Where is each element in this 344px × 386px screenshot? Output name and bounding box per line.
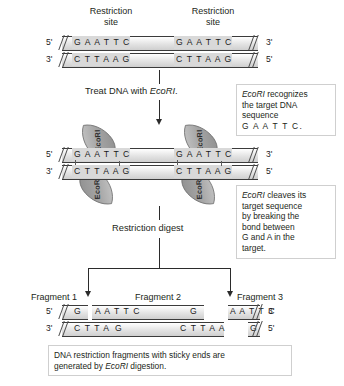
fragment-arrow-head-left — [85, 291, 91, 297]
dna-top-seq-site2: G A A T T C — [176, 36, 232, 49]
restriction-site-label-right-line2: site — [176, 17, 250, 28]
ecori-enzyme-label: EcoRI — [195, 177, 205, 199]
callout-recognize-line1: recognizes — [265, 89, 308, 99]
fragment-branch-left — [88, 268, 89, 292]
end-label-3prime-left-bottom-bound: 3' — [46, 166, 52, 177]
step1-arrow-head — [156, 119, 162, 125]
restriction-site-label-right: Restriction site — [176, 6, 250, 27]
end-label-5prime-left-top-bound: 5' — [46, 149, 52, 160]
step1-label-enzyme: EcoRI — [150, 86, 175, 96]
callout-recognize-sequence: G A A T T C. — [242, 121, 330, 132]
fragment-end-3prime-left: 3' — [46, 323, 52, 334]
dna-break-tick-right-bound — [250, 147, 259, 162]
callout-recognize-line3: sequence — [242, 110, 330, 121]
callout-recognize: EcoRI recognizes the target DNA sequence… — [236, 84, 336, 136]
callout-recognize-enzyme: EcoRI — [242, 89, 265, 99]
cut-mark-site2-top — [177, 160, 178, 165]
step2-connector-line — [159, 206, 160, 220]
callout-cleave-line2: target sequence — [242, 201, 330, 212]
dna-break-tick-left2 — [60, 52, 69, 67]
fragment-branch-right — [230, 268, 231, 292]
dna-break-tick-right2 — [250, 52, 259, 67]
restriction-site-label-right-line1: Restriction — [176, 6, 250, 17]
fragment-1-break-tick-top — [60, 304, 69, 319]
fragment-end-3prime-right: 3' — [268, 306, 274, 317]
cut-mark-site1-bottom — [119, 161, 120, 166]
dna-break-tick-left-bound — [60, 147, 69, 162]
callout-cleave-enzyme: EcoRI — [242, 190, 265, 200]
dna-break-tick-right2-bound — [250, 164, 259, 179]
end-label-5prime-right-bottom: 5' — [266, 54, 272, 65]
dna-break-tick-left2-bound — [60, 164, 69, 179]
dna-bottom-seq-site2-bound: C T T A A G — [176, 165, 232, 178]
ecori-enzyme-label: EcoRI — [93, 177, 103, 199]
restriction-site-label-left-line2: site — [74, 17, 148, 28]
fragment-3-bottom-strand-wrap: G — [248, 322, 260, 335]
cut-mark-site1-top — [75, 160, 76, 165]
fragment-3-break-tick-top — [254, 304, 263, 319]
step2-label: Restriction digest — [112, 223, 183, 233]
step1-arrow-shaft — [159, 100, 160, 120]
fragment-label-3: Fragment 3 — [237, 292, 283, 302]
callout-cleave-conj: and — [249, 232, 267, 242]
callout-summary-line2-suffix: digestion. — [128, 361, 166, 371]
step2-arrow-shaft — [159, 238, 160, 268]
fragment-label-2: Fragment 2 — [135, 292, 181, 302]
dna-bottom-seq-site2: C T T A A G — [176, 53, 232, 66]
fragment-2-bottom-seq-left: G — [115, 322, 123, 335]
dna-break-tick-right — [250, 35, 259, 50]
fragment-branch-line — [88, 268, 231, 269]
dna-top-seq-site2-bound: G A A T T C — [176, 148, 232, 161]
fragment-1-break-tick-bottom — [60, 321, 69, 336]
dna-top-seq-site1-bound: G A A T T C — [74, 148, 130, 161]
fragment-2-bottom-strand-wrap: G C T T A A — [112, 322, 224, 335]
fragment-2-top-seq-left: A A T T C — [95, 305, 141, 318]
dna-bottom-seq-site1: C T T A A G — [74, 53, 130, 66]
callout-cleave-line3: by breaking the — [242, 211, 330, 222]
dna-top-seq-site1: G A A T T C — [74, 36, 130, 49]
restriction-site-label-left: Restriction site — [74, 6, 148, 27]
fragment-3-top-strand-wrap: A A T T C — [228, 305, 260, 318]
callout-summary: DNA restriction fragments with sticky en… — [48, 345, 292, 376]
fragment-end-5prime-right: 5' — [268, 323, 274, 334]
dna-bottom-seq-site1-bound: C T T A A G — [74, 165, 130, 178]
dna-duplex-bound: G A A T T C G A A T T C C T T A A G C T … — [62, 148, 258, 178]
end-label-3prime-right-top: 3' — [266, 37, 272, 48]
cut-mark-site2-bottom — [221, 161, 222, 166]
fragment-3-break-tick-bottom — [254, 321, 263, 336]
end-label-3prime-left-bottom: 3' — [46, 54, 52, 65]
step1-label-prefix: Treat DNA with — [85, 86, 150, 96]
step1-connector-line — [159, 70, 160, 84]
fragment-2-top-seq-right: G — [190, 305, 198, 318]
restriction-site-label-left-line1: Restriction — [74, 6, 148, 17]
callout-cleave: EcoRI cleaves its target sequence by bre… — [236, 185, 336, 259]
end-label-3prime-right-top-bound: 3' — [266, 149, 272, 160]
dna-duplex-intact: G A A T T C G A A T T C C T T A A G C T … — [62, 36, 258, 66]
callout-recognize-line2: the target DNA — [242, 100, 330, 111]
callout-cleave-line4: bond between — [242, 222, 330, 233]
fragment-arrow-head-right — [227, 291, 233, 297]
fragment-1-top-seq: G — [74, 305, 82, 318]
fragment-end-5prime-left: 5' — [46, 306, 52, 317]
step1-label: Treat DNA with EcoRI. — [85, 86, 178, 96]
callout-summary-line2-prefix: generated by — [54, 361, 105, 371]
fragment-2-bottom-seq-right: C T T A A — [180, 322, 226, 335]
callout-cleave-line1: cleaves its — [265, 190, 306, 200]
callout-summary-enzyme: EcoRI — [105, 361, 128, 371]
fragment-label-1: Fragment 1 — [31, 292, 77, 302]
callout-summary-line1: DNA restriction fragments with sticky en… — [54, 350, 286, 361]
fragment-2-top-strand-wrap: A A T T C G — [92, 305, 204, 318]
step1-label-suffix: . — [175, 86, 178, 96]
callout-cleave-line5-rest: in the — [272, 232, 295, 242]
callout-cleave-line6: target. — [242, 243, 330, 254]
end-label-5prime-right-bottom-bound: 5' — [266, 166, 272, 177]
end-label-5prime-left-top: 5' — [46, 37, 52, 48]
dna-break-tick-left — [60, 35, 69, 50]
